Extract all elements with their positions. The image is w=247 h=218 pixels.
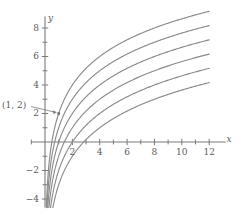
- x-tick-label-8: 8: [152, 148, 158, 157]
- point-annotation-label: (1, 2): [2, 101, 26, 110]
- y-tick-label-4: 4: [33, 81, 39, 90]
- curve-2: [48, 40, 209, 208]
- x-tick-label-4: 4: [97, 148, 103, 157]
- x-tick-label-12: 12: [203, 148, 214, 157]
- curve-3: [49, 54, 209, 207]
- y-axis-label: y: [48, 14, 53, 23]
- y-tick-label--2: −2: [26, 166, 39, 175]
- y-tick-label-8: 8: [33, 24, 39, 33]
- x-tick-label-10: 10: [176, 148, 187, 157]
- curve-5: [53, 83, 209, 208]
- y-tick-label-6: 6: [33, 52, 39, 61]
- x-axis-label: x: [227, 135, 232, 144]
- annotation-arrowhead: [53, 110, 57, 114]
- annotated-point-marker: [57, 112, 60, 115]
- y-tick-label-2: 2: [33, 109, 39, 118]
- curve-series: [46, 11, 209, 207]
- x-tick-label-6: 6: [124, 148, 130, 157]
- logarithmic-curves-chart: 24681012−4−22468 x y (1, 2): [0, 0, 247, 218]
- y-tick-label--4: −4: [26, 195, 39, 204]
- curve-0: [46, 11, 209, 207]
- curve-1: [47, 26, 209, 208]
- x-tick-label-2: 2: [69, 148, 75, 157]
